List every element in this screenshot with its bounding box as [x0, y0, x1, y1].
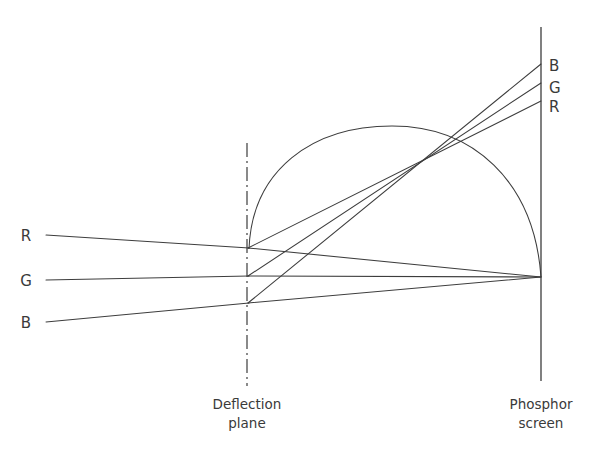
- input-ray-b: [46, 303, 249, 322]
- deflection-arc: [249, 126, 541, 277]
- caption-phosphor-screen-line1: Phosphor: [510, 396, 573, 412]
- input-ray-g: [46, 276, 249, 280]
- input-label-b: B: [21, 314, 31, 332]
- caption-deflection-plane-line1: Deflection: [213, 396, 282, 412]
- deflected-ray-r: [248, 101, 541, 248]
- input-label-g: G: [20, 272, 32, 290]
- input-ray-r: [46, 235, 249, 248]
- deflected-ray-b: [248, 64, 541, 303]
- deflected-ray-g: [248, 83, 541, 276]
- output-label-g: G: [549, 79, 561, 97]
- converging-ray-b: [248, 277, 541, 303]
- diagram-canvas: R G B B G R Deflection plane Phosphor sc…: [0, 0, 612, 461]
- converging-ray-g: [248, 276, 541, 277]
- crt-convergence-diagram: R G B B G R Deflection plane Phosphor sc…: [0, 0, 612, 461]
- converging-ray-r: [248, 248, 541, 277]
- output-label-r: R: [549, 98, 559, 116]
- caption-deflection-plane-line2: plane: [228, 415, 265, 431]
- output-label-b: B: [549, 57, 559, 75]
- caption-phosphor-screen-line2: screen: [519, 415, 564, 431]
- input-label-r: R: [21, 227, 31, 245]
